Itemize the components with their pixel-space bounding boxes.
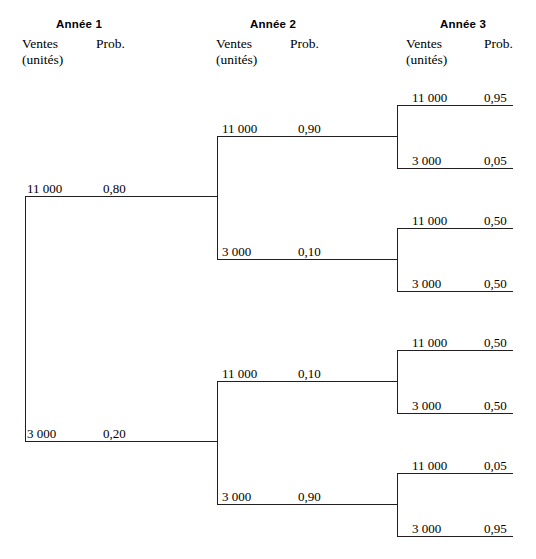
- column-title-annee-1: Année 1: [56, 18, 102, 30]
- node-y3-c2-prob: 0,50: [484, 399, 507, 412]
- decision-tree-diagram: Année 1 Ventes (unités) Prob. Année 2 Ve…: [0, 0, 536, 559]
- node-y3-b2-prob: 0,50: [484, 277, 507, 290]
- node-y3-a1-prob: 0,95: [484, 91, 507, 104]
- node-y3-b1-sales: 11 000: [412, 214, 447, 227]
- node-y1-low-prob: 0,20: [103, 427, 126, 440]
- branch-line-y3-b-vertical: [397, 228, 398, 291]
- node-y3-d1-sales: 11 000: [412, 459, 447, 472]
- column-subheader-prob-annee-1: Prob.: [96, 36, 125, 51]
- column-title-annee-3: Année 3: [440, 18, 486, 30]
- node-y2-c-prob: 0,10: [298, 367, 321, 380]
- node-y3-d2-sales: 3 000: [412, 522, 441, 535]
- branch-line-y3-a1: [397, 105, 513, 106]
- branch-line-y2-d: [217, 504, 398, 505]
- node-y3-c1-sales: 11 000: [412, 336, 447, 349]
- column-subheader-sales-annee-1: Ventes: [22, 36, 58, 51]
- node-y1-high-prob: 0,80: [103, 182, 126, 195]
- node-y3-a1-sales: 11 000: [412, 91, 447, 104]
- branch-line-y2-b: [217, 259, 398, 260]
- node-y3-a2-prob: 0,05: [484, 154, 507, 167]
- node-y3-b1-prob: 0,50: [484, 214, 507, 227]
- node-y2-a-sales: 11 000: [222, 122, 257, 135]
- branch-line-y2-upper-vertical: [217, 136, 218, 260]
- node-y2-c-sales: 11 000: [222, 367, 257, 380]
- node-y2-d-sales: 3 000: [222, 490, 251, 503]
- branch-line-y2-lower-vertical: [217, 381, 218, 504]
- node-y2-b-sales: 3 000: [222, 245, 251, 258]
- column-subheader-prob-annee-2: Prob.: [290, 36, 319, 51]
- branch-line-y3-c-vertical: [397, 350, 398, 413]
- branch-line-y3-b2: [397, 291, 513, 292]
- node-y3-d2-prob: 0,95: [484, 522, 507, 535]
- column-header-annee-1: Année 1 Ventes (unités) Prob.: [22, 18, 202, 74]
- branch-line-root-vertical: [25, 196, 26, 442]
- branch-line-y3-b1: [397, 228, 513, 229]
- branch-line-y3-a2: [397, 168, 513, 169]
- column-title-annee-2: Année 2: [250, 18, 296, 30]
- column-subheader-sales-unit-annee-1: (unités): [22, 52, 63, 67]
- node-y3-c2-sales: 3 000: [412, 399, 441, 412]
- node-y3-c1-prob: 0,50: [484, 336, 507, 349]
- branch-line-y3-d1: [397, 473, 513, 474]
- column-header-annee-2: Année 2 Ventes (unités) Prob.: [216, 18, 396, 74]
- branch-line-y2-a: [217, 136, 398, 137]
- branch-line-y3-c1: [397, 350, 513, 351]
- node-y3-a2-sales: 3 000: [412, 154, 441, 167]
- branch-line-y3-a-vertical: [397, 105, 398, 168]
- node-y3-b2-sales: 3 000: [412, 277, 441, 290]
- column-subheader-sales-annee-2: Ventes: [216, 36, 252, 51]
- column-subheader-prob-annee-3: Prob.: [484, 36, 513, 51]
- column-subheader-sales-unit-annee-3: (unités): [406, 52, 447, 67]
- node-y3-d1-prob: 0,05: [484, 459, 507, 472]
- column-header-annee-3: Année 3 Ventes (unités) Prob.: [406, 18, 536, 74]
- branch-line-y1-low: [25, 441, 217, 442]
- branch-line-y3-d-vertical: [397, 473, 398, 536]
- branch-line-y1-high: [25, 196, 217, 197]
- branch-line-y3-d2: [397, 536, 513, 537]
- branch-line-y3-c2: [397, 413, 513, 414]
- node-y2-b-prob: 0,10: [298, 245, 321, 258]
- column-subheader-sales-annee-3: Ventes: [406, 36, 442, 51]
- node-y1-high-sales: 11 000: [27, 182, 62, 195]
- node-y1-low-sales: 3 000: [27, 427, 56, 440]
- node-y2-a-prob: 0,90: [298, 122, 321, 135]
- column-subheader-sales-unit-annee-2: (unités): [216, 52, 257, 67]
- branch-line-y2-c: [217, 381, 398, 382]
- node-y2-d-prob: 0,90: [298, 490, 321, 503]
